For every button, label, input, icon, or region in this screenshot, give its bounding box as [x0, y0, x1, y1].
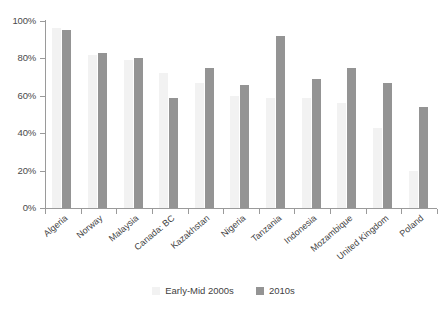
- bar-group: [152, 21, 188, 208]
- bar-early-mid-2000s: [337, 103, 346, 208]
- bar-group: [188, 21, 224, 208]
- x-axis-tick: [152, 209, 153, 214]
- bar-early-mid-2000s: [302, 98, 311, 208]
- bar-2010s: [383, 83, 392, 208]
- legend-label: 2010s: [269, 286, 295, 296]
- bar-early-mid-2000s: [52, 28, 61, 208]
- bar-group: [259, 21, 295, 208]
- bar-2010s: [134, 58, 143, 208]
- bar-2010s: [276, 36, 285, 208]
- legend-item: 2010s: [256, 286, 295, 296]
- bar-2010s: [312, 79, 321, 208]
- y-axis-tick-label: 40%: [0, 128, 36, 138]
- x-axis-tick: [116, 209, 117, 214]
- bar-2010s: [240, 85, 249, 208]
- x-axis-tick: [401, 209, 402, 214]
- bar-group: [294, 21, 330, 208]
- y-axis-tick-label: 60%: [0, 91, 36, 101]
- x-axis-tick: [330, 209, 331, 214]
- bar-2010s: [419, 107, 428, 208]
- bar-early-mid-2000s: [159, 73, 168, 208]
- bar-group: [401, 21, 437, 208]
- chart-legend: Early-Mid 2000s2010s: [0, 286, 447, 296]
- bar-early-mid-2000s: [124, 60, 133, 208]
- bar-early-mid-2000s: [373, 128, 382, 208]
- bar-group: [116, 21, 152, 208]
- bar-2010s: [169, 98, 178, 208]
- bar-group: [45, 21, 81, 208]
- legend-swatch-icon: [256, 287, 264, 295]
- bar-group: [223, 21, 259, 208]
- y-axis-tick-label: 100%: [0, 16, 36, 26]
- bar-early-mid-2000s: [409, 171, 418, 208]
- bar-group: [330, 21, 366, 208]
- bar-2010s: [347, 68, 356, 208]
- bar-chart: 0%20%40%60%80%100% AlgeriaNorwayMalaysia…: [0, 0, 447, 321]
- bar-early-mid-2000s: [195, 83, 204, 208]
- x-axis-tick: [188, 209, 189, 214]
- bar-2010s: [205, 68, 214, 208]
- x-axis-tick: [294, 209, 295, 214]
- x-axis-tick: [45, 209, 46, 214]
- bar-2010s: [98, 53, 107, 208]
- bar-2010s: [62, 30, 71, 208]
- y-axis-tick-label: 80%: [0, 53, 36, 63]
- x-axis-tick: [223, 209, 224, 214]
- y-axis-tick-label: 20%: [0, 166, 36, 176]
- x-axis-tick: [81, 209, 82, 214]
- bar-group: [366, 21, 402, 208]
- legend-label: Early-Mid 2000s: [165, 286, 234, 296]
- bar-early-mid-2000s: [230, 96, 239, 208]
- y-axis-tick-label: 0%: [0, 203, 36, 213]
- plot-area: [45, 21, 437, 208]
- x-axis-tick: [259, 209, 260, 214]
- x-axis-tick: [437, 209, 438, 214]
- bar-early-mid-2000s: [88, 55, 97, 208]
- legend-item: Early-Mid 2000s: [152, 286, 234, 296]
- bar-early-mid-2000s: [266, 98, 275, 208]
- legend-swatch-icon: [152, 287, 160, 295]
- x-axis-line: [45, 208, 437, 209]
- x-axis-tick: [366, 209, 367, 214]
- bar-group: [81, 21, 117, 208]
